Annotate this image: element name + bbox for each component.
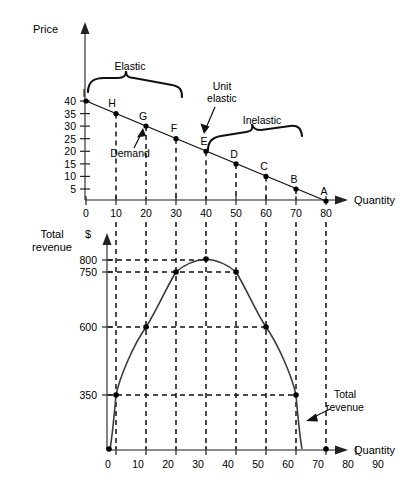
data-point-D: [233, 161, 238, 166]
point-label-C: C: [260, 160, 268, 172]
unit-elastic-label-line2: elastic: [207, 92, 237, 104]
top-x-tick-labels: 0 10 20 30 40 50 60 70 80: [83, 207, 332, 219]
top-ytick-10: 10: [64, 170, 76, 182]
bottom-x-axis-arrowhead: [335, 446, 348, 455]
point-label-A: A: [320, 185, 327, 197]
tr-point-50: [233, 269, 239, 275]
total-revenue-annotation-line1: Total: [334, 388, 356, 400]
tr-point-80: [323, 446, 329, 452]
point-label-B: B: [290, 173, 297, 185]
tr-point-0: [106, 446, 112, 452]
bottom-xtick-90: 90: [372, 458, 384, 470]
tr-point-10: [113, 392, 119, 398]
bottom-y-tick-labels: 800 750 600 350: [79, 254, 97, 401]
top-xtick-70: 70: [290, 207, 302, 219]
data-point-F: [173, 136, 178, 141]
top-ytick-30: 30: [64, 120, 76, 132]
demand-chart: Price Quantity 40 35 30: [33, 22, 395, 219]
data-point-C: [263, 174, 268, 179]
bottom-ytick-350: 350: [79, 389, 97, 401]
tr-point-30: [173, 269, 179, 275]
dollar-unit-label: $: [85, 228, 91, 240]
bottom-v-gridlines: [116, 222, 326, 449]
top-y-axis-arrowhead: [81, 22, 90, 34]
top-quantity-axis-title: Quantity: [354, 194, 395, 206]
demand-point-labels: I H G F E D C B A: [83, 87, 328, 197]
top-xtick-50: 50: [230, 207, 242, 219]
top-xtick-40: 40: [200, 207, 212, 219]
bottom-xtick-80: 80: [342, 458, 354, 470]
top-xtick-60: 60: [260, 207, 272, 219]
top-ytick-15: 15: [64, 158, 76, 170]
data-point-H: [113, 111, 118, 116]
top-ytick-5: 5: [70, 183, 76, 195]
inelastic-label: Inelastic: [243, 114, 282, 126]
elastic-label: Elastic: [115, 60, 146, 72]
point-label-G: G: [139, 110, 147, 122]
data-point-A: [323, 198, 328, 203]
economics-figure: Price Quantity 40 35 30: [0, 0, 406, 488]
total-revenue-arrowhead: [306, 414, 318, 422]
bottom-xtick-70: 70: [312, 458, 324, 470]
top-ytick-25: 25: [64, 133, 76, 145]
bottom-xtick-10: 10: [132, 458, 144, 470]
total-revenue-chart: Total revenue $ Quantity 800 750 600 350: [32, 222, 395, 470]
top-xtick-10: 10: [110, 207, 122, 219]
bottom-xtick-40: 40: [222, 458, 234, 470]
price-axis-title: Price: [33, 23, 58, 35]
total-revenue-annotation-line2: revenue: [326, 401, 364, 413]
point-label-H: H: [108, 97, 116, 109]
top-y-tick-labels: 40 35 30 25 20 15 10 5: [64, 95, 76, 195]
point-label-D: D: [230, 148, 238, 160]
bottom-x-tick-labels: 0 10 20 30 40 50 60 70 80 90: [105, 458, 384, 470]
demand-arrowhead: [137, 128, 146, 138]
top-x-axis-arrowhead: [335, 196, 348, 205]
top-xtick-80: 80: [320, 207, 332, 219]
data-point-B: [293, 186, 298, 191]
bottom-y-axis-arrowhead: [103, 233, 112, 245]
bottom-xtick-30: 30: [192, 458, 204, 470]
tr-point-60: [263, 324, 269, 330]
unit-elastic-label-line1: Unit: [213, 80, 232, 92]
bottom-ytick-750: 750: [79, 266, 97, 278]
figure-svg: Price Quantity 40 35 30: [0, 0, 406, 488]
bottom-ytick-800: 800: [79, 254, 97, 266]
unit-elastic-arrowhead: [201, 124, 210, 135]
elastic-brace: [88, 71, 182, 97]
bottom-xtick-20: 20: [162, 458, 174, 470]
top-ytick-35: 35: [64, 108, 76, 120]
tr-point-40: [203, 256, 209, 262]
point-label-I: I: [83, 87, 86, 99]
demand-label: Demand: [110, 147, 150, 159]
data-point-G: [143, 124, 148, 129]
point-label-E: E: [200, 135, 207, 147]
top-xtick-30: 30: [170, 207, 182, 219]
tr-point-20: [143, 324, 149, 330]
bottom-xtick-60: 60: [282, 458, 294, 470]
total-revenue-axis-title-line1: Total: [40, 228, 63, 240]
point-label-F: F: [171, 122, 177, 134]
data-point-I: [83, 98, 88, 103]
inelastic-brace: [208, 124, 302, 150]
total-revenue-axis-title-line2: revenue: [32, 241, 72, 253]
unit-elastic-arrow-shaft: [206, 107, 215, 128]
top-xtick-20: 20: [140, 207, 152, 219]
tr-point-70: [293, 392, 299, 398]
bottom-xtick-50: 50: [252, 458, 264, 470]
bottom-h-gridlines: [108, 260, 298, 395]
top-xtick-0: 0: [83, 207, 89, 219]
bottom-quantity-axis-title: Quantity: [354, 444, 395, 456]
top-ytick-40: 40: [64, 95, 76, 107]
top-ytick-20: 20: [64, 145, 76, 157]
bottom-xtick-0: 0: [105, 458, 111, 470]
bottom-ytick-600: 600: [79, 321, 97, 333]
